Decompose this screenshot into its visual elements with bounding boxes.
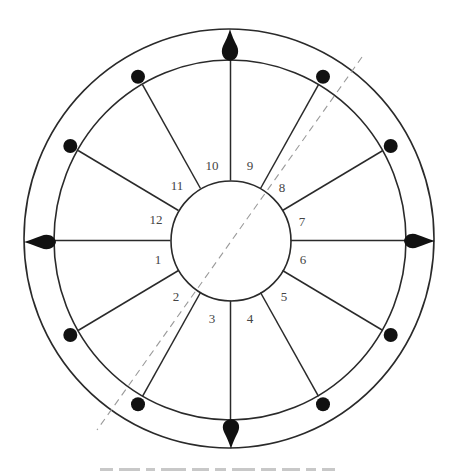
cardinal-markers (24, 29, 435, 449)
dashed-axis-line (97, 57, 362, 430)
bottom-spike-icon (223, 419, 239, 449)
house-number: 5 (281, 289, 288, 304)
house-number: 7 (299, 214, 306, 229)
caption-clipped (100, 465, 335, 472)
house-dividers (55, 61, 407, 421)
dot-marker-icon (316, 397, 330, 411)
house-number: 4 (247, 311, 254, 326)
left-spike-icon (24, 235, 56, 249)
house-number: 10 (206, 158, 219, 173)
house-number: 12 (150, 212, 163, 227)
inner-circle (171, 181, 291, 301)
house-number: 2 (173, 289, 180, 304)
dot-marker-icon (384, 139, 398, 153)
dot-marker-icon (63, 328, 77, 342)
house-number: 9 (247, 158, 254, 173)
house-divider-line (78, 151, 178, 211)
house-divider-line (283, 151, 383, 211)
house-number: 8 (279, 180, 286, 195)
house-divider-line (143, 85, 201, 189)
dot-marker-icon (316, 70, 330, 84)
caption-fragments (100, 465, 335, 471)
house-divider-line (261, 85, 319, 189)
top-spike-icon (222, 29, 238, 61)
dot-marker-icon (63, 139, 77, 153)
house-number: 1 (155, 252, 162, 267)
house-number: 6 (300, 252, 307, 267)
dot-marker-icon (131, 397, 145, 411)
house-number: 11 (171, 178, 184, 193)
house-wheel-diagram: 1 2 3 4 5 6 7 8 9 10 11 12 (0, 0, 456, 472)
house-divider-line (143, 293, 201, 397)
house-divider-line (283, 271, 383, 331)
house-divider-line (78, 271, 178, 331)
dot-marker-icon (131, 70, 145, 84)
outer-ring (24, 29, 434, 448)
right-spike-icon (404, 234, 435, 248)
house-divider-line (261, 293, 319, 397)
dot-marker-icon (384, 328, 398, 342)
house-number: 3 (209, 311, 216, 326)
